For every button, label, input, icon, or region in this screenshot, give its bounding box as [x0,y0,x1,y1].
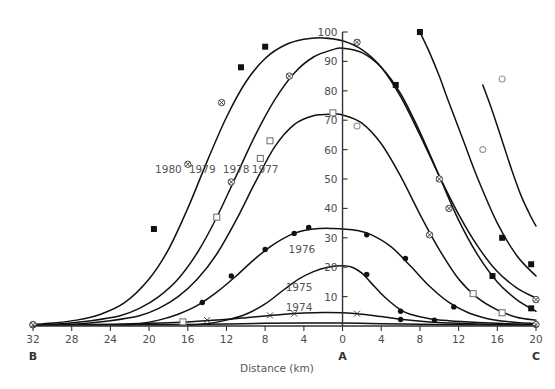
marker-filled-square [417,29,423,35]
y-tick-label: 60 [324,144,337,156]
y-tick-label: 100 [317,26,337,38]
marker-filled-circle [364,232,369,237]
marker-filled-circle [262,247,267,252]
series-curve-1978 [52,114,536,325]
series-label-1975: 1975 [286,281,313,293]
marker-crossed-circle [286,73,292,79]
y-tick-label: 40 [324,202,337,214]
series-label-1978: 1978 [223,163,250,175]
y-tick-label: 50 [324,173,337,185]
marker-open-square [257,155,263,161]
marker-filled-circle [398,317,403,322]
marker-open-square [267,138,273,144]
axis-endpoint-label-b: B [29,350,37,363]
marker-open-square [180,319,186,325]
marker-filled-circle [403,256,408,261]
marker-crossed-circle [446,205,452,211]
x-tick-label: 16 [491,333,505,345]
x-tick-label: 16 [181,333,195,345]
x-tick-label: 20 [142,333,155,345]
axes-group [33,32,536,331]
y-tick-label: 30 [324,232,337,244]
marker-open-circle [354,123,360,129]
x-tick-label: 8 [262,333,269,345]
marker-open-square [499,310,505,316]
marker-filled-circle [200,300,205,305]
x-tick-label: 12 [452,333,465,345]
series-curve-far-right-curve [483,85,536,226]
marker-filled-square [151,226,157,232]
x-tick-label: 4 [301,333,308,345]
series-label-1980: 1980 [155,163,182,175]
marker-filled-square [238,64,244,70]
marker-filled-square [528,261,534,267]
series-curve-1979 [33,48,536,325]
marker-crossed-circle [533,296,539,302]
x-tick-label: 20 [529,333,542,345]
y-tick-label: 10 [324,291,337,303]
chart-figure: 3228242016128404812162010203040506070809… [0,0,555,389]
x-tick-label: 24 [104,333,118,345]
series-label-1976: 1976 [289,243,316,255]
curves-group [33,32,536,325]
axis-endpoint-label-c: C [532,350,540,363]
series-label-1974: 1974 [286,301,313,313]
marker-open-circle [499,76,505,82]
marker-crossed-circle [436,176,442,182]
y-tick-label: 20 [324,261,337,273]
marker-filled-circle [432,317,437,322]
y-tick-label: 90 [324,55,337,67]
marker-filled-square [499,235,505,241]
marker-filled-circle [398,309,403,314]
x-tick-label: 32 [26,333,39,345]
marker-filled-circle [451,304,456,309]
marker-open-square [214,214,220,220]
series-curve-right-outer-curve [420,32,536,276]
axis-endpoint-label-a: A [338,350,347,363]
marker-crossed-circle [218,99,224,105]
marker-crossed-circle [354,39,360,45]
marker-open-circle [480,147,486,153]
y-tick-label: 70 [324,114,337,126]
y-tick-label: 80 [324,85,337,97]
series-curve-1976 [188,266,536,325]
marker-filled-circle [229,273,234,278]
marker-filled-square [393,82,399,88]
marker-filled-circle [364,272,369,277]
chart-canvas: 3228242016128404812162010203040506070809… [0,0,555,389]
marker-crossed-circle [228,179,234,185]
x-tick-label: 28 [65,333,78,345]
x-tick-label: 12 [220,333,233,345]
x-axis-title: Distance (km) [240,362,314,374]
marker-filled-square [262,44,268,50]
series-label-1979: 1979 [189,163,216,175]
series-label-1977: 1977 [252,163,279,175]
x-tick-label: 8 [417,333,424,345]
marker-open-square [470,291,476,297]
marker-crossed-circle [426,232,432,238]
marker-filled-square [489,273,495,279]
marker-filled-circle [291,231,296,236]
marker-filled-square [528,305,534,311]
x-tick-label: 0 [339,333,346,345]
marker-filled-circle [306,225,311,230]
series-labels-group: 1980197919781977197619751974 [155,163,316,313]
x-tick-label: 4 [378,333,385,345]
